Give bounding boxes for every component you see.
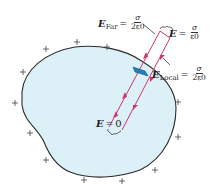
plus-icon — [152, 167, 158, 173]
plus-icon — [20, 69, 26, 75]
plus-icon — [74, 39, 80, 45]
plus-icon — [12, 100, 18, 106]
plus-icon — [119, 178, 125, 184]
arrow-up-icon — [143, 52, 148, 59]
plus-icon — [43, 157, 49, 163]
plus-icon — [81, 177, 87, 183]
label-e-local: ELocal=σ2ε0 — [152, 63, 206, 82]
plus-icon — [175, 134, 181, 140]
label-e-inside: E=0 — [96, 112, 122, 131]
plus-icon — [43, 46, 49, 52]
plus-icon — [27, 130, 33, 136]
label-e-total: E=σε0 — [169, 22, 199, 41]
label-e-far: EFar=σ2ε0 — [98, 12, 145, 31]
